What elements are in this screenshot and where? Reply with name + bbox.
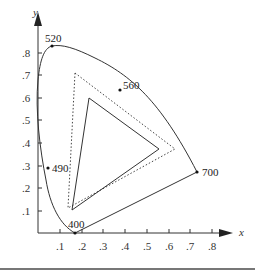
svg-text:.8: .8: [22, 47, 31, 59]
x-axis-arrow-icon: [219, 229, 233, 237]
y-tick-labels: .1 .2 .3 .4 .5 .6 .7 .8: [22, 47, 31, 217]
gamut-dotted-triangle: [68, 73, 175, 208]
marker-700: [195, 170, 198, 173]
svg-text:.8: .8: [208, 240, 217, 252]
svg-text:.2: .2: [22, 182, 30, 194]
marker-560: [118, 88, 121, 91]
svg-text:.3: .3: [22, 160, 31, 172]
label-560: 560: [123, 79, 140, 91]
y-axis-label: y: [32, 6, 38, 18]
svg-text:.2: .2: [78, 240, 86, 252]
marker-490: [46, 166, 49, 169]
gamut-solid-triangle: [72, 98, 159, 210]
svg-text:.4: .4: [121, 240, 130, 252]
svg-text:.6: .6: [22, 92, 31, 104]
label-700: 700: [202, 166, 219, 178]
label-520: 520: [45, 32, 62, 44]
bottom-divider: [0, 268, 255, 270]
svg-text:.4: .4: [22, 137, 31, 149]
marker-520: [50, 44, 53, 47]
x-tick-labels: .1 .2 .3 .4 .5 .6 .7 .8: [56, 240, 217, 252]
svg-text:.5: .5: [22, 114, 31, 126]
x-axis-label: x: [238, 226, 244, 238]
svg-text:.7: .7: [186, 240, 195, 252]
svg-text:.6: .6: [165, 240, 174, 252]
svg-text:.3: .3: [99, 240, 108, 252]
svg-text:.1: .1: [56, 240, 64, 252]
spectral-locus: [37, 46, 197, 234]
label-490: 490: [52, 162, 69, 174]
chromaticity-diagram: y x .1 .2 .3 .4 .5 .6 .7 .8 .1 .2 .3 .4: [0, 0, 255, 273]
svg-text:.5: .5: [143, 240, 152, 252]
svg-text:.7: .7: [22, 69, 31, 81]
svg-text:.1: .1: [22, 205, 30, 217]
label-400: 400: [68, 218, 85, 230]
marker-400: [73, 231, 76, 234]
wavelength-markers: [46, 44, 198, 234]
